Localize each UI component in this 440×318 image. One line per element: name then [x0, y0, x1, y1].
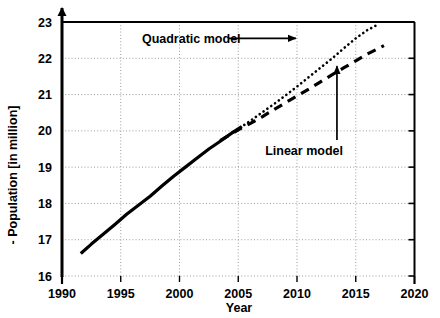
data-series — [81, 26, 384, 254]
x-tick-label: 2005 — [224, 287, 252, 301]
x-tick-label: 1995 — [107, 287, 135, 301]
annotation-label-quadratic-model: Quadratic model — [142, 32, 241, 46]
population-forecast-chart: Quadratic modelLinear model 199019952000… — [0, 0, 440, 318]
y-tick-label: 19 — [38, 161, 52, 175]
x-tick-label: 2020 — [401, 287, 429, 301]
series-line-linear-model — [221, 46, 384, 141]
series-line-quadratic-model — [221, 26, 376, 141]
y-tick-label: 20 — [38, 124, 52, 138]
y-axis-title: - Population [in million] — [6, 106, 20, 245]
x-axis-title: Year — [226, 301, 253, 315]
grid-lines — [62, 22, 415, 276]
y-tick-label: 17 — [38, 233, 52, 247]
y-tick-label: 23 — [38, 16, 52, 30]
y-tick-label: 18 — [38, 197, 52, 211]
y-tick-label: 22 — [38, 52, 52, 66]
series-line-observed-data — [81, 127, 242, 254]
x-tick-label: 2010 — [283, 287, 311, 301]
chart-canvas: Quadratic modelLinear model 199019952000… — [0, 0, 440, 318]
x-tick-label: 1990 — [48, 287, 76, 301]
annotation-label-linear-model: Linear model — [265, 144, 343, 158]
y-tick-label: 21 — [38, 88, 52, 102]
x-tick-label: 2000 — [166, 287, 194, 301]
y-tick-label: 16 — [38, 270, 52, 284]
x-tick-label: 2015 — [342, 287, 370, 301]
chart-annotations: Quadratic modelLinear model — [142, 32, 343, 158]
